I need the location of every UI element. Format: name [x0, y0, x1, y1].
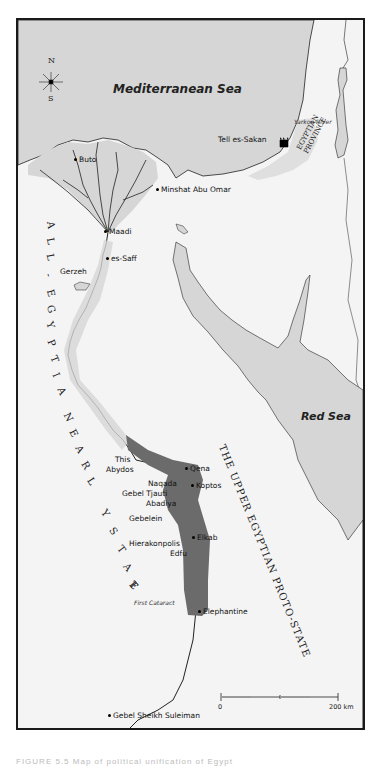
site-tell-es-sakan: Tell es-Sakan [218, 136, 267, 144]
compass-south: S [48, 94, 53, 103]
site-minshat: Minshat Abu Omar [156, 186, 231, 194]
site-elephantine: Elephantine [198, 608, 248, 616]
mediterranean-sea-label: Mediterranean Sea [113, 82, 242, 96]
red-sea-label: Red Sea [301, 410, 351, 423]
bitter-lake [176, 224, 188, 234]
figure-caption: FIGURE 5.5 Map of political unification … [16, 757, 233, 766]
site-abadiya: Abadiya [146, 500, 176, 508]
site-abydos: Abydos [106, 466, 134, 474]
dead-sea-shape [335, 68, 348, 158]
site-maadi: Maadi [104, 228, 132, 236]
site-gerzeh: Gerzeh [60, 268, 87, 276]
site-hierakonpolis: Hierakonpolis [129, 540, 180, 548]
site-gebel-tjauti: Gebel Tjauti [122, 490, 167, 498]
first-cataract-label: First Cataract [134, 599, 175, 606]
scale-start-label: 0 [218, 703, 222, 711]
proto-state-area [126, 435, 210, 616]
site-this: This [115, 456, 130, 464]
site-naqada: Naqada [148, 480, 177, 488]
site-buto: Buto [74, 156, 96, 164]
jordan-river [343, 20, 348, 68]
site-qena: Qena [185, 465, 210, 473]
site-gebel-sheikh-suleiman: Gebel Sheikh Suleiman [108, 712, 200, 720]
site-elkab: Elkab [192, 534, 217, 542]
compass-north: N [48, 56, 55, 65]
site-es-saff: es-Saff [106, 255, 137, 263]
site-edfu: Edfu [170, 550, 187, 558]
map-frame: N S Mediterranean Sea Red Sea Yarkon Riv… [16, 18, 365, 730]
jordan-south [344, 158, 363, 400]
scale-end-label: 200 km [329, 703, 354, 711]
scale-bar [221, 693, 338, 701]
site-gebelein: Gebelein [129, 515, 162, 523]
faiyum-lake [74, 282, 90, 290]
site-koptos: Koptos [191, 482, 221, 490]
